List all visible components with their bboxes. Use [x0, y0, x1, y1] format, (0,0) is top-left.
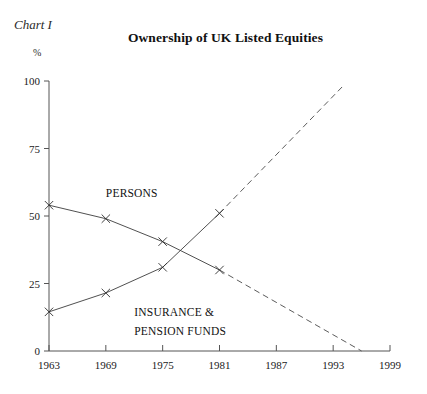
series-projection-line: [220, 270, 362, 351]
data-point-marker: [215, 209, 223, 217]
series-line: [49, 213, 220, 312]
y-tick-label: 0: [35, 345, 41, 357]
y-tick-label: 75: [29, 143, 41, 155]
y-tick-label: 25: [29, 278, 41, 290]
data-point-marker: [215, 266, 223, 274]
series-annotation-label: PERSONS: [106, 187, 158, 199]
x-tick-label: 1999: [379, 359, 402, 371]
y-axis-ticks: 0255075100: [24, 75, 50, 357]
y-tick-label: 50: [29, 210, 41, 222]
series-annotation-label: INSURANCE &: [134, 306, 214, 318]
chart-plot-area: 0255075100 1963196919751981198719931999 …: [0, 0, 427, 394]
series-annotations-layer: PERSONSINSURANCE &PENSION FUNDS: [106, 187, 226, 337]
x-tick-label: 1987: [265, 359, 288, 371]
series-annotation-label: PENSION FUNDS: [134, 325, 226, 337]
data-point-marker: [102, 215, 110, 223]
x-axis: 1963196919751981198719931999: [38, 345, 402, 371]
y-axis: 0255075100: [24, 75, 50, 357]
series-projection-line: [220, 86, 343, 213]
data-point-marker: [158, 237, 166, 245]
x-tick-label: 1969: [95, 359, 118, 371]
x-tick-label: 1981: [209, 359, 231, 371]
chart-figure: Chart I Ownership of UK Listed Equities …: [0, 0, 427, 394]
x-tick-label: 1963: [38, 359, 61, 371]
x-axis-ticks: 1963196919751981198719931999: [38, 345, 402, 371]
y-tick-label: 100: [24, 75, 41, 87]
series-insurance-pension-funds: [45, 86, 343, 316]
data-point-marker: [158, 263, 166, 271]
data-point-marker: [102, 289, 110, 297]
x-tick-label: 1975: [152, 359, 175, 371]
x-tick-label: 1993: [322, 359, 345, 371]
